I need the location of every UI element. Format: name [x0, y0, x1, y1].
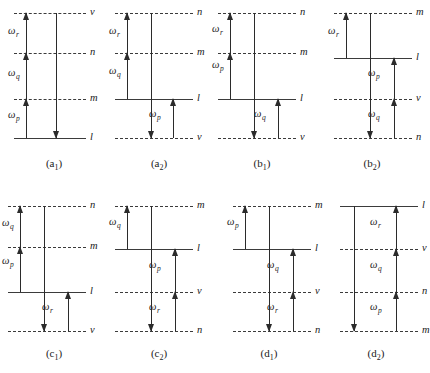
panel-caption-d2: (d2): [322, 347, 430, 362]
level-line-n: [340, 292, 418, 293]
level-label-v: v: [315, 286, 320, 296]
arrow-omega-q: [20, 206, 21, 247]
label-omega-p: ωp: [212, 60, 224, 74]
arrowhead-up-icon: [23, 12, 29, 20]
panel-b1-stage: n m l v ωr ωp ωq: [208, 2, 316, 154]
label-omega-q: ωq: [109, 217, 121, 231]
level-label-n: n: [416, 132, 421, 142]
arrowhead-up-icon: [124, 205, 130, 213]
level-line-l: [334, 58, 412, 59]
level-line-v: [334, 99, 412, 100]
level-label-v: v: [197, 132, 202, 142]
level-label-v: v: [422, 243, 427, 253]
level-label-m: m: [90, 241, 98, 251]
arrow-emission: [56, 13, 57, 138]
arrow-omega-p: [20, 247, 21, 292]
label-omega-q: ωq: [8, 68, 20, 82]
arrow-omega-q: [396, 249, 397, 292]
arrowhead-down-icon: [351, 324, 357, 332]
arrow-emission: [44, 206, 45, 331]
level-label-m: m: [90, 93, 98, 103]
arrowhead-down-icon: [266, 324, 272, 332]
level-line-v: [233, 292, 311, 293]
arrowhead-down-icon: [53, 131, 59, 139]
arrowhead-up-icon: [23, 52, 29, 60]
level-label-l: l: [315, 243, 318, 253]
arrow-omega-q: [278, 99, 279, 138]
arrow-omega-p: [175, 249, 176, 292]
arrow-emission: [151, 13, 152, 138]
panel-c1: n m l v ωq ωp ωr (c1): [0, 192, 108, 373]
level-line-l: [340, 206, 418, 207]
level-label-m: m: [300, 47, 308, 57]
level-label-l: l: [197, 243, 200, 253]
level-label-n: n: [315, 325, 320, 335]
arrowhead-up-icon: [172, 248, 178, 256]
level-label-l: l: [197, 93, 200, 103]
arrowhead-up-icon: [242, 205, 248, 213]
level-label-l: l: [300, 93, 303, 103]
level-label-n: n: [90, 47, 95, 57]
level-label-l: l: [90, 132, 93, 142]
arrow-omega-q: [127, 53, 128, 99]
label-omega-p: ωp: [8, 110, 20, 124]
arrow-omega-p: [394, 58, 395, 99]
level-label-n: n: [422, 286, 427, 296]
level-label-n: n: [197, 325, 202, 335]
panel-d2: l v n m ωr ωq ωp (d2): [322, 192, 430, 373]
level-line-l: [115, 249, 193, 250]
arrowhead-up-icon: [172, 291, 178, 299]
panel-b2: m l v n ωr ωp ωq (b2): [318, 2, 426, 184]
level-label-n: n: [197, 7, 202, 17]
arrowhead-up-icon: [343, 12, 349, 20]
arrowhead-down-icon: [148, 131, 154, 139]
label-omega-p: ωp: [370, 302, 382, 316]
level-label-n: n: [90, 200, 95, 210]
panel-caption-a2: (a2): [105, 157, 213, 172]
arrow-omega-r: [230, 13, 231, 53]
arrowhead-up-icon: [290, 291, 296, 299]
panel-caption-b2: (b2): [318, 157, 426, 172]
arrow-omega-r: [346, 13, 347, 58]
panel-c2: m l v n ωq ωp ωr (c2): [105, 192, 213, 373]
arrow-omega-p: [245, 206, 246, 249]
label-omega-q: ωq: [2, 218, 14, 232]
label-omega-p: ωp: [227, 217, 239, 231]
label-omega-q: ωq: [109, 66, 121, 80]
arrow-omega-r: [293, 292, 294, 331]
label-omega-r: ωr: [212, 24, 223, 38]
arrow-omega-r: [396, 206, 397, 249]
arrow-omega-q: [394, 99, 395, 138]
label-omega-q: ωq: [254, 109, 266, 123]
label-omega-q: ωq: [370, 260, 382, 274]
level-label-v: v: [300, 132, 305, 142]
level-label-m: m: [197, 47, 205, 57]
arrowhead-up-icon: [275, 98, 281, 106]
panel-caption-c1: (c1): [0, 347, 108, 362]
arrowhead-down-icon: [41, 324, 47, 332]
arrowhead-up-icon: [393, 205, 399, 213]
level-line-l: [14, 138, 86, 139]
panel-caption-b1: (b1): [208, 157, 316, 172]
panel-b2-stage: m l v n ωr ωp ωq: [318, 2, 426, 154]
arrowhead-up-icon: [393, 291, 399, 299]
arrowhead-up-icon: [124, 52, 130, 60]
arrowhead-up-icon: [17, 246, 23, 254]
label-omega-r: ωr: [109, 26, 120, 40]
panel-caption-d1: (d1): [215, 347, 323, 362]
arrow-omega-r: [26, 13, 27, 53]
label-omega-r: ωr: [328, 26, 339, 40]
label-omega-r: ωr: [370, 217, 381, 231]
arrow-omega-q: [293, 249, 294, 292]
level-label-n: n: [300, 7, 305, 17]
panel-caption-c2: (c2): [105, 347, 213, 362]
panel-caption-a1: (a1): [0, 157, 108, 172]
arrow-omega-p: [396, 292, 397, 331]
level-label-m: m: [416, 7, 424, 17]
level-label-l: l: [416, 52, 419, 62]
arrow-emission: [370, 13, 371, 138]
arrow-omega-r: [68, 292, 69, 331]
arrow-emission: [151, 206, 152, 331]
level-label-l: l: [422, 200, 425, 210]
arrowhead-down-icon: [148, 324, 154, 332]
